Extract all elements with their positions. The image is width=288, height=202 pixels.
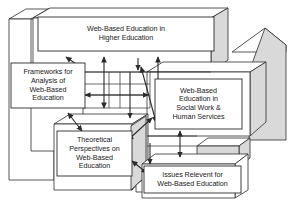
box-outline-frameworks [11,63,85,108]
box-outline-social [155,79,242,129]
diagram-canvas: Web-Based Education in Higher Education … [0,0,288,202]
box-outline-top [38,17,214,51]
box-outline-issues [144,166,241,193]
diagram-graphics [0,0,288,202]
box-outline-theoretical [57,131,132,176]
